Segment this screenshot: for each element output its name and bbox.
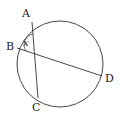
chord-bd [17, 48, 102, 76]
diagram-canvas: A B C D x [0, 0, 120, 114]
label-c: C [32, 101, 40, 114]
chord-ac [32, 22, 38, 98]
angle-x-label: x [23, 37, 29, 48]
label-d: D [105, 72, 114, 85]
circle-chords-diagram: A B C D x [0, 0, 120, 114]
label-a: A [21, 7, 31, 20]
label-b: B [6, 40, 14, 53]
circle [17, 21, 103, 107]
